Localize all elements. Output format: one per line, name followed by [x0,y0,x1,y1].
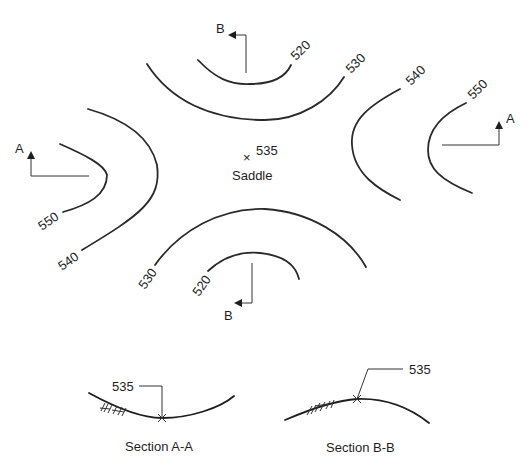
saddle-contour-diagram: 520 530 540 550 550 540 530 520 × 535 Sa… [0,0,528,463]
section-b-caption: Section B-B [326,440,395,455]
section-b-bottom-arrow-icon [238,263,252,303]
section-a-caption: Section A-A [125,439,193,454]
contour-540-right [352,89,400,200]
section-a-right-label: A [506,111,515,126]
contour-530-bottom [155,209,366,267]
contour-520-bottom [208,253,299,279]
label-530-bottom: 530 [135,265,160,291]
section-a-left-arrow-icon [31,155,89,176]
contour-520-top [198,60,291,84]
label-540-right: 540 [403,62,429,88]
saddle-marker-icon: × [243,150,251,165]
saddle-elevation: 535 [256,143,278,158]
section-b-top-label: B [216,21,225,36]
contour-550-right [428,103,472,193]
section-a-a-profile [89,386,234,422]
contour-550-left [60,144,107,212]
section-b-top-arrow-icon [232,35,246,73]
section-a-elevation: 535 [112,379,134,394]
section-a-left-label: A [15,141,24,156]
label-520-bottom: 520 [189,272,214,298]
label-520-top: 520 [288,37,314,63]
section-b-elevation: 535 [409,362,431,377]
label-530-top: 530 [343,50,369,76]
contour-540-left [82,109,158,250]
label-550-left: 550 [35,209,61,234]
section-b-bottom-label: B [224,308,233,323]
label-550-right: 550 [465,76,491,102]
section-a-right-arrow-icon [442,125,499,145]
section-b-b-profile [285,369,429,423]
label-540-left: 540 [55,249,81,274]
saddle-label: Saddle [232,168,272,183]
